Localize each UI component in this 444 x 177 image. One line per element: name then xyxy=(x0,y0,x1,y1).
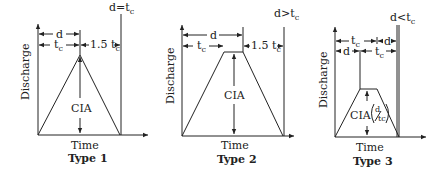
panel-title: Type 1 xyxy=(68,152,108,165)
peak-label: CIA xyxy=(224,89,246,102)
hydrograph-diagram: d tc 1.5 tc CIA d=tc Discharge Time Type… xyxy=(0,0,444,177)
d-label: d xyxy=(210,29,217,42)
peak-label: CIA xyxy=(350,109,372,122)
close-paren xyxy=(386,104,389,123)
panel-type-3: tc d d tc CIA d tc d<tc Discharge Time T… xyxy=(317,11,426,168)
recession-label: 1.5 tc xyxy=(251,39,281,54)
open-paren xyxy=(372,104,375,123)
panel-title: Type 2 xyxy=(217,153,257,166)
condition-label: d>tc xyxy=(274,7,300,22)
hydrograph-curve xyxy=(38,55,120,135)
y-axis-label: Discharge xyxy=(317,51,330,108)
x-axis-label: Time xyxy=(356,141,384,154)
recession-label: 1.5 tc xyxy=(90,38,120,53)
peak-label-group: CIA d tc xyxy=(350,104,389,123)
panel-title: Type 3 xyxy=(353,155,393,168)
tc-label-lower: tc xyxy=(375,45,384,60)
tc-label: tc xyxy=(351,34,360,49)
panel-type-2: d tc 1.5 tc CIA d>tc Discharge Time Type… xyxy=(164,7,300,166)
condition-label: d<tc xyxy=(390,11,416,26)
y-axis-label: Discharge xyxy=(164,47,177,104)
x-axis-label: Time xyxy=(71,139,99,152)
y-axis-label: Discharge xyxy=(19,43,32,100)
fraction-numerator: d xyxy=(375,105,380,114)
tc-label: tc xyxy=(197,39,206,54)
d-label-top: d xyxy=(384,35,391,48)
peak-label: CIA xyxy=(71,102,93,115)
x-axis-label: Time xyxy=(221,139,249,152)
fraction-denominator: tc xyxy=(378,114,386,123)
condition-label: d=tc xyxy=(109,1,135,16)
d-label: d xyxy=(343,45,350,58)
panel-type-1: d tc 1.5 tc CIA d=tc Discharge Time Type… xyxy=(19,1,148,165)
